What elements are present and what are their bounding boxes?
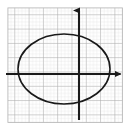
figure-container: Ellipse graphed on coordinate grid [0, 0, 129, 129]
grid-minor-and-major-lines [8, 8, 123, 123]
coordinate-plane-graph: Ellipse graphed on coordinate grid [0, 0, 129, 129]
grid-layer [8, 8, 123, 123]
